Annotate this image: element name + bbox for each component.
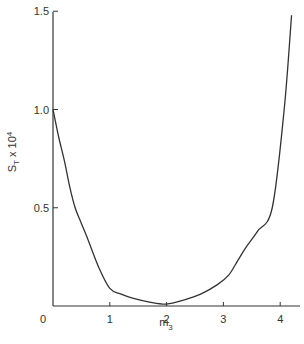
y-tick-label: 1.0	[34, 104, 49, 116]
y-axis-label: ST x 104	[5, 132, 22, 173]
x-tick-label: 0	[40, 313, 46, 325]
x-tick-label: 3	[220, 313, 226, 325]
axis-ticks	[53, 11, 280, 306]
y-tick-label: 1.5	[34, 5, 49, 17]
x-tick-label: 4	[277, 313, 283, 325]
data-curve	[53, 15, 292, 304]
x-axis-label: m3	[159, 316, 173, 331]
chart-canvas	[0, 0, 304, 344]
x-tick-label: 1	[107, 313, 113, 325]
y-tick-label: 0.5	[34, 202, 49, 214]
